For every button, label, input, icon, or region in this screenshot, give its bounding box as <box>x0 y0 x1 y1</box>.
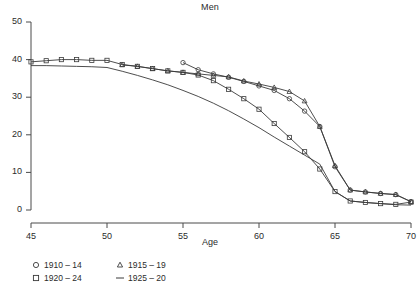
legend-label: 1920 – 24 <box>44 273 82 283</box>
legend-item-1925-20[interactable]: 1925 – 20 <box>112 272 196 283</box>
legend-row: 1910 – 14 1915 – 19 <box>28 258 196 271</box>
y-tick-label: 50 <box>0 16 22 26</box>
legend-row: 1920 – 24 1925 – 20 <box>28 271 196 284</box>
y-tick-label: 40 <box>0 54 22 64</box>
legend-item-1915-19[interactable]: 1915 – 19 <box>112 259 196 270</box>
series-line <box>183 63 411 202</box>
series-line <box>122 65 411 202</box>
y-tick-label: 0 <box>0 204 22 214</box>
chart-legend: 1910 – 14 1915 – 19 1920 – 24 1925 – 20 <box>28 258 196 284</box>
square-marker-icon <box>28 272 44 283</box>
plot-area <box>0 0 420 297</box>
x-axis-title: Age <box>0 237 420 247</box>
line-marker-icon <box>112 272 128 283</box>
chart-container: Men 01020304050 455055606570 Age 1910 – … <box>0 0 420 297</box>
y-tick-label: 10 <box>0 166 22 176</box>
legend-label: 1915 – 19 <box>128 260 166 270</box>
y-tick-label: 30 <box>0 91 22 101</box>
legend-label: 1925 – 20 <box>128 273 166 283</box>
legend-item-1910-14[interactable]: 1910 – 14 <box>28 259 112 270</box>
series-1920---24 <box>29 58 413 207</box>
y-tick-label: 20 <box>0 129 22 139</box>
legend-label: 1910 – 14 <box>44 260 82 270</box>
legend-item-1920-24[interactable]: 1920 – 24 <box>28 272 112 283</box>
series-line <box>31 60 411 205</box>
series-1925---20 <box>31 66 411 205</box>
series-line <box>31 66 411 205</box>
circle-marker-icon <box>28 259 44 270</box>
triangle-marker-icon <box>112 259 128 270</box>
